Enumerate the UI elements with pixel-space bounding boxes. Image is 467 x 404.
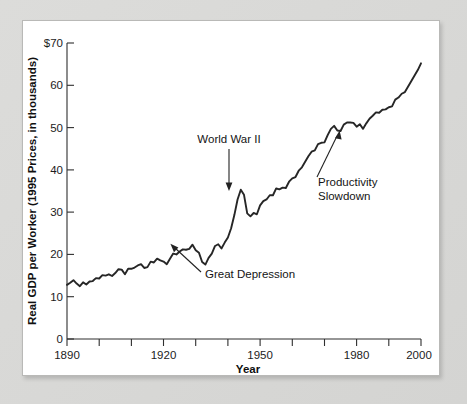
- y-tick-label-50: 50: [50, 122, 63, 134]
- y-axis-ticks: [67, 43, 74, 339]
- x-tick-label-1980: 1980: [344, 349, 370, 361]
- y-tick-label-20: 20: [50, 248, 63, 260]
- chart-panel: $70 60 50 40 30 20 10 0: [22, 20, 440, 376]
- annotation-label-world-war-ii: World War II: [197, 133, 260, 145]
- annotation-label-productivity: Productivity: [318, 176, 378, 188]
- y-tick-label-40: 40: [50, 164, 63, 176]
- x-tick-label-1890: 1890: [54, 349, 80, 361]
- y-tick-label-10: 10: [50, 291, 63, 303]
- y-axis-title: Real GDP per Worker (1995 Prices, in tho…: [26, 57, 38, 325]
- arrow-head-up-left-icon: [170, 244, 178, 252]
- x-tick-label-1920: 1920: [151, 349, 177, 361]
- gdp-series-line: [67, 63, 421, 286]
- y-tick-label-70: $70: [44, 37, 63, 49]
- x-axis-ticks: [67, 339, 421, 346]
- y-tick-label-30: 30: [50, 206, 63, 218]
- annotation-label-great-depression: Great Depression: [205, 268, 295, 280]
- annotation-label-slowdown: Slowdown: [318, 190, 370, 202]
- gdp-per-worker-line-chart: $70 60 50 40 30 20 10 0: [23, 21, 439, 375]
- arrow-head-down-icon: [226, 183, 233, 192]
- arrow-head-up-right-icon: [335, 131, 342, 140]
- y-tick-label-60: 60: [50, 79, 63, 91]
- y-tick-label-0: 0: [57, 333, 63, 345]
- annotation-world-war-ii: World War II: [197, 133, 260, 191]
- x-tick-label-2000: 2000: [406, 349, 432, 361]
- x-axis-title: Year: [236, 363, 261, 375]
- x-tick-label-1950: 1950: [247, 349, 273, 361]
- annotation-productivity-slowdown: Productivity Slowdown: [317, 131, 378, 202]
- figure-container: $70 60 50 40 30 20 10 0: [0, 0, 467, 404]
